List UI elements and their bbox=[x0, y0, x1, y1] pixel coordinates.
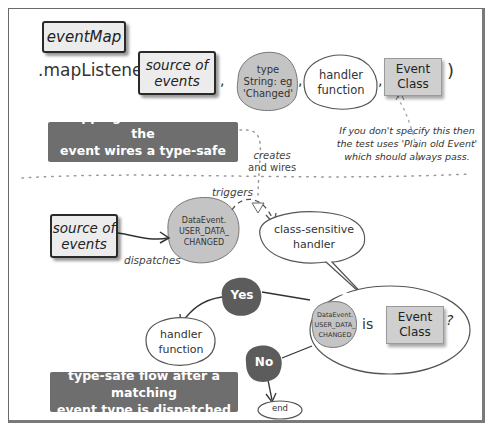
type-string-arg: type String: eg 'Changed' bbox=[238, 56, 298, 108]
eventmap-box: eventMap bbox=[42, 21, 126, 53]
no-label: No bbox=[246, 355, 282, 369]
question-mark: ? bbox=[446, 312, 453, 328]
type-safe-flow-banner: type-safe flow after a matching event ty… bbox=[50, 372, 238, 412]
dispatches-arrow bbox=[112, 232, 168, 239]
comma-separator: , bbox=[220, 72, 224, 88]
triggers-label: triggers bbox=[212, 186, 253, 198]
comma-separator: , bbox=[378, 72, 382, 88]
mapping-banner: mapping the listener to the event wires … bbox=[48, 122, 238, 162]
inner-event-type-blob: DataEvent. USER_DATA_ CHANGED bbox=[312, 302, 358, 348]
closing-paren: ) bbox=[447, 60, 454, 81]
default-class-note: If you don't specify this then the test … bbox=[322, 124, 492, 163]
comma-separator: , bbox=[298, 72, 302, 88]
yes-connector bbox=[262, 292, 310, 300]
handler-function-node: handler function bbox=[146, 318, 216, 366]
class-sensitive-handler: class-sensitive handler bbox=[262, 214, 366, 260]
event-type-blob: DataEvent. USER_DATA_ CHANGED bbox=[168, 200, 240, 262]
no-connector bbox=[282, 346, 312, 358]
is-label: is bbox=[362, 316, 373, 332]
yes-label: Yes bbox=[222, 288, 262, 302]
source-of-events-box: source of events bbox=[50, 214, 118, 258]
event-class-arg: Event Class bbox=[384, 58, 442, 96]
source-of-events-arg: source of events bbox=[138, 51, 216, 95]
end-node: end bbox=[258, 403, 302, 413]
creates-and-wires-label: creates and wires bbox=[248, 150, 296, 174]
event-class-check-box: Event Class bbox=[386, 306, 444, 344]
creates-arrowhead bbox=[252, 203, 264, 213]
handler-function-arg: handler function bbox=[304, 58, 378, 108]
